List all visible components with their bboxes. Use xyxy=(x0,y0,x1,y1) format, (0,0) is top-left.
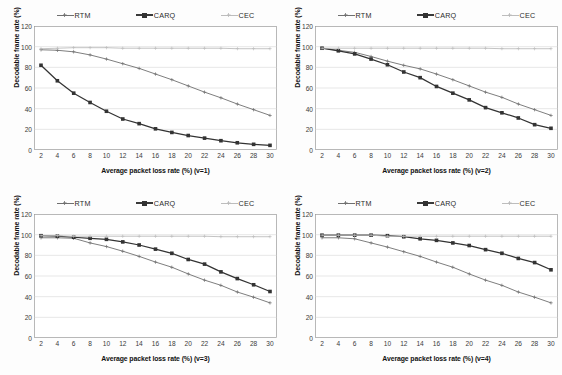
x-tick-label: 2 xyxy=(320,152,324,159)
legend-entry-cec[interactable]: CEC xyxy=(502,199,536,208)
y-tick-label: 100 xyxy=(10,43,32,50)
y-tick-label: 80 xyxy=(10,64,32,71)
x-tick-label: 26 xyxy=(234,152,241,159)
y-tick-label: 0 xyxy=(10,335,32,342)
x-tick-label: 16 xyxy=(152,152,159,159)
legend-label: CEC xyxy=(520,11,536,20)
x-tick-label: 30 xyxy=(266,152,273,159)
plot-area xyxy=(315,214,558,338)
x-tick-label: 14 xyxy=(416,152,423,159)
legend-label: RTM xyxy=(356,11,372,20)
y-tick-label: 0 xyxy=(10,147,32,154)
chart-legend: RTMCARQCEC xyxy=(34,195,277,211)
x-tick-label: 18 xyxy=(449,152,456,159)
x-axis-ticks: 24681012141618202224262830 xyxy=(321,340,556,352)
legend-entry-carq[interactable]: CARQ xyxy=(417,199,457,208)
x-tick-label: 28 xyxy=(531,340,538,347)
legend-label: CARQ xyxy=(154,199,176,208)
legend-entry-rtm[interactable]: RTM xyxy=(338,199,372,208)
y-tick-label: 40 xyxy=(10,105,32,112)
legend-label: RTM xyxy=(75,199,91,208)
x-tick-label: 22 xyxy=(482,340,489,347)
plot-area xyxy=(34,26,277,150)
y-tick-label: 100 xyxy=(10,231,32,238)
y-tick-label: 20 xyxy=(10,126,32,133)
x-tick-label: 18 xyxy=(449,340,456,347)
x-tick-label: 8 xyxy=(369,152,373,159)
x-tick-label: 14 xyxy=(135,340,142,347)
x-tick-label: 16 xyxy=(433,340,440,347)
x-tick-label: 16 xyxy=(152,340,159,347)
x-axis-title: Average packet loss rate (%) (v=3) xyxy=(34,355,277,362)
x-tick-label: 4 xyxy=(56,152,60,159)
legend-entry-rtm[interactable]: RTM xyxy=(338,11,372,20)
square-marker-icon xyxy=(417,12,434,19)
x-tick-label: 8 xyxy=(88,152,92,159)
x-tick-label: 6 xyxy=(72,152,76,159)
x-axis-title: Average packet loss rate (%) (v=1) xyxy=(34,167,277,174)
x-tick-label: 10 xyxy=(103,152,110,159)
y-tick-label: 80 xyxy=(291,252,313,259)
x-tick-label: 6 xyxy=(353,152,357,159)
x-tick-label: 12 xyxy=(119,340,126,347)
y-axis-ticks: 020406080100120 xyxy=(8,188,32,375)
legend-entry-cec[interactable]: CEC xyxy=(221,11,255,20)
x-tick-label: 10 xyxy=(384,152,391,159)
plus-marker-icon xyxy=(57,200,74,207)
legend-entry-rtm[interactable]: RTM xyxy=(57,199,91,208)
x-axis-ticks: 24681012141618202224262830 xyxy=(40,340,275,352)
x-tick-label: 28 xyxy=(250,152,257,159)
x-tick-label: 24 xyxy=(498,152,505,159)
y-tick-label: 120 xyxy=(10,211,32,218)
x-tick-label: 2 xyxy=(320,340,324,347)
legend-label: CARQ xyxy=(435,199,457,208)
y-axis-ticks: 020406080100120 xyxy=(289,188,313,375)
chart-panel-v1: RTMCARQCECDecodable frame rate (%)020406… xyxy=(0,0,281,187)
x-axis-title: Average packet loss rate (%) (v=2) xyxy=(315,167,558,174)
x-tick-label: 12 xyxy=(400,340,407,347)
legend-entry-carq[interactable]: CARQ xyxy=(136,11,176,20)
x-tick-label: 20 xyxy=(185,340,192,347)
x-axis-ticks: 24681012141618202224262830 xyxy=(321,152,556,164)
y-tick-label: 120 xyxy=(291,211,313,218)
x-tick-label: 8 xyxy=(369,340,373,347)
legend-label: RTM xyxy=(356,199,372,208)
x-tick-label: 12 xyxy=(119,152,126,159)
y-tick-label: 20 xyxy=(10,314,32,321)
plus-marker-icon xyxy=(221,200,238,207)
x-tick-label: 6 xyxy=(353,340,357,347)
figure-grid: RTMCARQCECDecodable frame rate (%)020406… xyxy=(0,0,562,375)
legend-label: CARQ xyxy=(154,11,176,20)
x-tick-label: 24 xyxy=(217,152,224,159)
legend-entry-rtm[interactable]: RTM xyxy=(57,11,91,20)
x-tick-label: 14 xyxy=(135,152,142,159)
x-tick-label: 2 xyxy=(39,340,43,347)
plus-marker-icon xyxy=(502,12,519,19)
legend-entry-cec[interactable]: CEC xyxy=(502,11,536,20)
x-axis-ticks: 24681012141618202224262830 xyxy=(40,152,275,164)
square-marker-icon xyxy=(136,12,153,19)
y-tick-label: 60 xyxy=(291,273,313,280)
x-tick-label: 30 xyxy=(547,340,554,347)
square-marker-icon xyxy=(417,200,434,207)
x-tick-label: 26 xyxy=(234,340,241,347)
chart-panel-v4: RTMCARQCECDecodable frame rate (%)020406… xyxy=(281,188,562,375)
x-tick-label: 26 xyxy=(515,152,522,159)
square-marker-icon xyxy=(136,200,153,207)
x-tick-label: 30 xyxy=(547,152,554,159)
x-tick-label: 8 xyxy=(88,340,92,347)
legend-entry-carq[interactable]: CARQ xyxy=(417,11,457,20)
y-tick-label: 20 xyxy=(291,314,313,321)
legend-label: CEC xyxy=(239,199,255,208)
legend-entry-carq[interactable]: CARQ xyxy=(136,199,176,208)
x-tick-label: 24 xyxy=(217,340,224,347)
y-tick-label: 0 xyxy=(291,335,313,342)
x-tick-label: 22 xyxy=(201,152,208,159)
chart-legend: RTMCARQCEC xyxy=(315,7,558,23)
x-tick-label: 22 xyxy=(482,152,489,159)
legend-entry-cec[interactable]: CEC xyxy=(221,199,255,208)
legend-label: RTM xyxy=(75,11,91,20)
y-tick-label: 40 xyxy=(10,293,32,300)
legend-label: CARQ xyxy=(435,11,457,20)
y-tick-label: 100 xyxy=(291,231,313,238)
